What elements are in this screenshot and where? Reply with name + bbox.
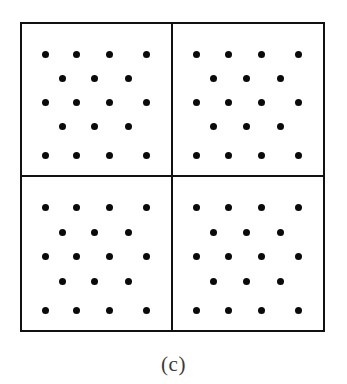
lattice-cell-bottom-left (22, 177, 173, 330)
lattice-dot (59, 123, 66, 130)
figure-root: (c) (0, 0, 347, 384)
lattice-dot (225, 204, 232, 211)
lattice-dot (42, 204, 49, 211)
lattice-dot (210, 75, 217, 82)
lattice-dot (295, 152, 302, 159)
lattice-dot (42, 99, 49, 106)
lattice-dot (243, 229, 250, 236)
lattice-dot (210, 229, 217, 236)
lattice-dot (143, 152, 150, 159)
lattice-dot (277, 278, 284, 285)
lattice-dot (42, 152, 49, 159)
lattice-dot (258, 307, 265, 314)
lattice-dot (73, 152, 80, 159)
lattice-dot (42, 307, 49, 314)
lattice-dot (258, 152, 265, 159)
lattice-dot (210, 123, 217, 130)
lattice-dot (295, 253, 302, 260)
lattice-dot (91, 75, 98, 82)
lattice-dot (277, 229, 284, 236)
lattice-dot (258, 253, 265, 260)
lattice-dot (225, 307, 232, 314)
lattice-dot (59, 75, 66, 82)
lattice-dot (193, 253, 200, 260)
lattice-dot (225, 99, 232, 106)
lattice-dot (243, 123, 250, 130)
lattice-dot (42, 51, 49, 58)
lattice-dot (258, 204, 265, 211)
lattice-dot (193, 204, 200, 211)
lattice-dot (143, 51, 150, 58)
lattice-dot (193, 99, 200, 106)
lattice-dot (295, 204, 302, 211)
lattice-dot (225, 253, 232, 260)
lattice-dot (277, 123, 284, 130)
lattice-cell-top-left (22, 24, 173, 177)
lattice-frame (20, 22, 325, 332)
lattice-dot (295, 307, 302, 314)
lattice-dot (106, 152, 113, 159)
lattice-dot (143, 204, 150, 211)
lattice-dot (106, 253, 113, 260)
lattice-dot (210, 278, 217, 285)
lattice-dot (125, 75, 132, 82)
lattice-dot (125, 229, 132, 236)
figure-caption: (c) (0, 352, 347, 377)
lattice-dot (125, 278, 132, 285)
lattice-dot (295, 51, 302, 58)
lattice-dot (91, 278, 98, 285)
lattice-dot (59, 229, 66, 236)
lattice-dot (225, 51, 232, 58)
lattice-dot (143, 253, 150, 260)
lattice-dot (193, 307, 200, 314)
lattice-dot (125, 123, 132, 130)
lattice-dot (106, 99, 113, 106)
lattice-dot (73, 99, 80, 106)
lattice-cell-bottom-right (173, 177, 324, 330)
lattice-dot (243, 278, 250, 285)
lattice-dot (73, 51, 80, 58)
lattice-dot (59, 278, 66, 285)
lattice-dot (258, 99, 265, 106)
lattice-dot (91, 229, 98, 236)
lattice-dot (91, 123, 98, 130)
lattice-dot (106, 51, 113, 58)
lattice-dot (295, 99, 302, 106)
lattice-dot (73, 204, 80, 211)
lattice-dot (143, 99, 150, 106)
lattice-cell-top-right (173, 24, 324, 177)
lattice-dot (193, 51, 200, 58)
lattice-dot (258, 51, 265, 58)
lattice-dot (243, 75, 250, 82)
lattice-dot (42, 253, 49, 260)
lattice-dot (106, 307, 113, 314)
lattice-dot (277, 75, 284, 82)
lattice-dot (193, 152, 200, 159)
lattice-dot (225, 152, 232, 159)
lattice-dot (73, 307, 80, 314)
lattice-dot (73, 253, 80, 260)
lattice-dot (106, 204, 113, 211)
lattice-dot (143, 307, 150, 314)
